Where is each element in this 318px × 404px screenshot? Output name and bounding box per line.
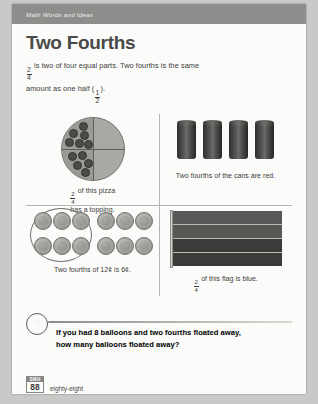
pepperoni-icon xyxy=(69,129,78,138)
page-body: Two Fourths 2 4 is two of four equal par… xyxy=(12,24,306,394)
question-text: If you had 8 balloons and two fourths fl… xyxy=(56,327,241,350)
question-rule xyxy=(48,321,292,323)
pepperoni-icon xyxy=(65,138,74,147)
coin-icon xyxy=(135,212,153,230)
pizza-caption-fraction: 2 4 xyxy=(70,191,75,205)
coin-icon xyxy=(72,212,90,230)
coin-icon xyxy=(97,212,115,230)
intro-text-1: is two of four equal parts. Two fourths … xyxy=(32,61,199,70)
coin-icon xyxy=(97,237,115,255)
running-header-text: Math Words and Ideas xyxy=(26,11,93,18)
flag-illustration xyxy=(170,210,282,268)
can-top-icon xyxy=(177,120,196,125)
coin-icon xyxy=(116,237,134,255)
can-top-icon xyxy=(255,120,274,125)
pepperoni-icon xyxy=(81,168,90,177)
panel-cans: Two fourths of the cans are red. xyxy=(159,114,292,205)
coin-icon xyxy=(53,212,71,230)
flag-body xyxy=(173,211,282,266)
coin-icon xyxy=(53,237,71,255)
page-title: Two Fourths xyxy=(26,33,292,52)
pizza-circle xyxy=(61,117,125,181)
question-line-1: If you had 8 balloons and two fourths fl… xyxy=(56,327,241,339)
page-number-word: eighty-eight xyxy=(50,385,83,393)
fraction-two-fourths: 2 4 xyxy=(27,67,32,82)
panel-flag: 2 4 of this flag is blue. xyxy=(159,205,292,296)
pepperoni-icon xyxy=(84,140,93,149)
question-band: ? If you had 8 balloons and two fourths … xyxy=(26,319,292,359)
running-header: Math Words and Ideas xyxy=(12,4,306,24)
flag-caption: 2 4 of this flag is blue. xyxy=(193,274,258,293)
pepperoni-icon xyxy=(78,151,87,160)
question-line-2: how many balloons floated away? xyxy=(56,339,241,351)
flag-stripe xyxy=(173,211,282,225)
flag-caption-text: of this flag is blue. xyxy=(199,275,258,282)
flag-stripe xyxy=(173,225,282,239)
question-mark-icon: ? xyxy=(26,313,48,335)
can-top-icon xyxy=(229,120,248,125)
intro-text-2-prefix: amount as one half ( xyxy=(26,84,94,93)
intro-line-2: amount as one half ( 1 2 ). xyxy=(26,82,292,105)
pepperoni-icon xyxy=(73,161,82,170)
page-footer: SMH 88 eighty-eight xyxy=(26,376,83,393)
cans-caption: Two fourths of the cans are red. xyxy=(176,171,275,182)
can-top-icon xyxy=(203,120,222,125)
flag-stripe-blue xyxy=(173,239,282,253)
pepperoni-icon xyxy=(84,159,93,168)
can-icon xyxy=(203,123,222,159)
intro-line-1: 2 4 is two of four equal parts. Two four… xyxy=(26,59,292,82)
pepperoni-icon xyxy=(75,139,84,148)
coins-illustration xyxy=(33,212,153,260)
pepperoni-icon xyxy=(68,152,77,161)
pizza-caption-line1: of this pizza xyxy=(76,187,115,194)
cans-illustration xyxy=(177,123,274,159)
coin-icon xyxy=(34,237,52,255)
panel-pizza: 2 4 of this pizza has a topping. xyxy=(26,114,159,205)
coin-icon xyxy=(34,212,52,230)
flag-caption-fraction: 2 4 xyxy=(194,279,199,293)
coins-caption: Two fourths of 12¢ is 6¢. xyxy=(54,265,131,276)
coin-icon xyxy=(72,237,90,255)
page-number: 88 xyxy=(26,382,44,393)
panel-coins: Two fourths of 12¢ is 6¢. xyxy=(26,205,159,296)
pizza-horizontal-cut xyxy=(62,149,125,150)
pepperoni-icon xyxy=(79,122,88,131)
coin-icon xyxy=(116,212,134,230)
textbook-page: Math Words and Ideas Two Fourths 2 4 is … xyxy=(12,4,306,394)
examples-grid: 2 4 of this pizza has a topping. Two fou… xyxy=(26,114,292,296)
flag-stripe-blue xyxy=(173,253,282,266)
pizza-illustration xyxy=(61,117,125,181)
intro-text-2-suffix: ). xyxy=(100,84,105,93)
coin-icon xyxy=(135,237,153,255)
smh-tab: SMH 88 xyxy=(26,376,44,393)
can-icon xyxy=(229,123,248,159)
intro-paragraph: 2 4 is two of four equal parts. Two four… xyxy=(26,59,292,105)
can-icon xyxy=(255,123,274,159)
can-icon xyxy=(177,123,196,159)
